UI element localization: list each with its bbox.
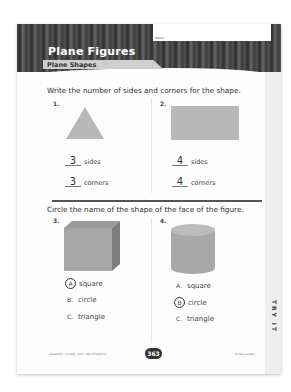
section2-instruction: Circle the name of the shape of the face… (47, 205, 244, 214)
triangle-shape (65, 106, 105, 140)
worksheet-page: Name: Plane Figures Plane Shapes TRY IT … (17, 24, 281, 374)
corners-input-1[interactable]: 3 (65, 177, 81, 187)
rectangle-shape (171, 106, 239, 140)
option-text: square (187, 282, 211, 290)
sides-label: sides (84, 158, 101, 166)
option-text: triangle (78, 313, 105, 321)
corners-input-2[interactable]: 4 (172, 177, 188, 187)
option-letter: A (65, 278, 76, 289)
column-divider (151, 218, 152, 343)
sides-input-1[interactable]: 3 (65, 156, 81, 166)
question-number: 1. (53, 100, 59, 107)
page-title: Plane Figures (48, 45, 135, 58)
option-circle[interactable]: Bcircle (174, 297, 207, 308)
option-square[interactable]: Asquare (65, 278, 103, 289)
corners-label: corners (84, 179, 108, 187)
question-number: 2. (160, 100, 166, 107)
option-letter: B. (65, 295, 75, 305)
footer-left: GEOMETRIC FIGURES, DATA, AND ATTRIBUTES (49, 353, 107, 356)
option-text: circle (188, 299, 207, 307)
page-subtitle: Plane Shapes (47, 61, 96, 69)
option-letter: A. (174, 281, 184, 291)
name-label: Name: (155, 36, 165, 40)
option-triangle[interactable]: C.triangle (174, 314, 214, 324)
column-divider (151, 98, 152, 193)
page-number: 363 (145, 348, 162, 359)
sides-answer-1: 3sides (65, 156, 101, 166)
corners-label: corners (191, 179, 215, 187)
cylinder-shape (171, 224, 215, 274)
option-triangle[interactable]: C.triangle (65, 312, 105, 322)
option-letter: C. (65, 312, 75, 322)
option-square[interactable]: A.square (174, 281, 211, 291)
name-field[interactable]: Name: (153, 24, 271, 41)
option-text: circle (78, 296, 97, 304)
sides-input-2[interactable]: 4 (172, 156, 188, 166)
option-letter: B (174, 297, 185, 308)
corners-answer-1: 3corners (65, 177, 108, 187)
cube-shape (64, 221, 120, 271)
option-text: triangle (187, 315, 214, 323)
sides-answer-2: 4sides (172, 156, 208, 166)
try-it-tab: TRY IT (271, 300, 278, 333)
question-number: 3. (53, 217, 59, 224)
section-divider (52, 200, 262, 202)
footer-right: PLANE FIGURES (235, 353, 255, 356)
section1-instruction: Write the number of sides and corners fo… (47, 86, 241, 95)
option-text: square (79, 280, 103, 288)
corners-answer-2: 4corners (172, 177, 215, 187)
option-letter: C. (174, 314, 184, 324)
question-number: 4. (160, 217, 166, 224)
option-circle[interactable]: B.circle (65, 295, 97, 305)
sides-label: sides (191, 158, 208, 166)
